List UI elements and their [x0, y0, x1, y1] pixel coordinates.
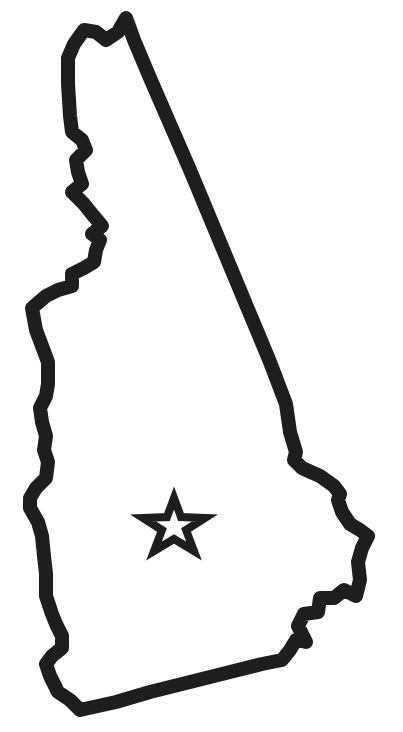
map-canvas: New Hampshire state outline [0, 0, 403, 732]
state-outline [30, 18, 368, 710]
state-map-svg [0, 0, 403, 732]
capital-star-icon [143, 498, 205, 551]
